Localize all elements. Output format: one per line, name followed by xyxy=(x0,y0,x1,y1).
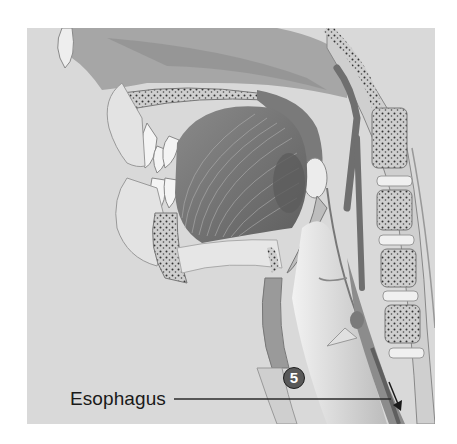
step-badge: 5 xyxy=(283,367,305,389)
arrow-shaft xyxy=(389,382,398,404)
leader-line-layer xyxy=(0,0,457,444)
esophagus-label: Esophagus xyxy=(70,388,166,410)
